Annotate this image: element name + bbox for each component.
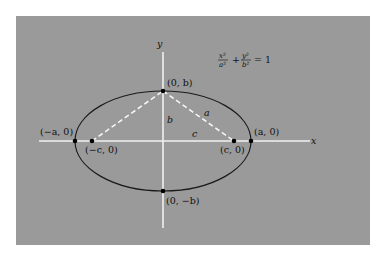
- point-right-vertex: [249, 139, 254, 144]
- label-left-vertex: (−a, 0): [40, 126, 73, 137]
- label-right-focus: (c, 0): [220, 144, 245, 155]
- point-left-focus: [90, 139, 95, 144]
- label-right-vertex: (a, 0): [254, 126, 279, 137]
- x-axis-label: x: [311, 135, 317, 146]
- segment-label-a: a: [204, 107, 210, 118]
- point-bottom-vertex: [161, 189, 166, 194]
- equation-x-denominator: a²: [219, 61, 226, 69]
- y-axis-label: y: [156, 38, 163, 49]
- equation-rhs: = 1: [254, 54, 271, 65]
- point-left-vertex: [73, 139, 78, 144]
- equation-plus: +: [232, 54, 240, 65]
- segment-label-b: b: [167, 114, 173, 125]
- label-left-focus: (−c, 0): [85, 144, 118, 155]
- point-top-vertex: [161, 89, 166, 94]
- equation-x-numerator: x²: [219, 52, 226, 60]
- segment-label-c: c: [192, 128, 198, 139]
- label-top-vertex: (0, b): [167, 77, 193, 88]
- ellipse-diagram: y x (0, b) (0, −b) (−a, 0) (a, 0) (−c, 0…: [0, 0, 385, 260]
- equation-y-numerator: y²: [241, 52, 249, 60]
- point-right-focus: [232, 139, 237, 144]
- equation-y-denominator: b²: [242, 61, 249, 69]
- label-bottom-vertex: (0, −b): [166, 195, 200, 206]
